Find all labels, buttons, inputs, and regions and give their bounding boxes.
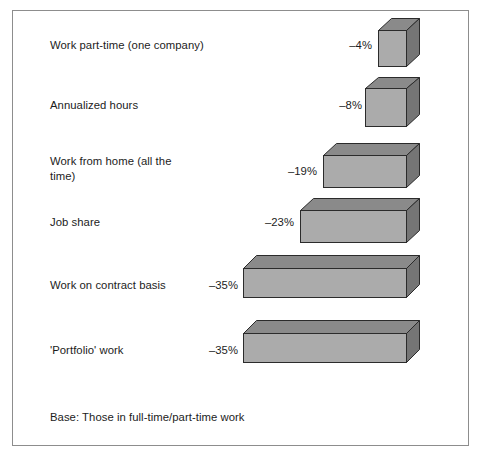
bar-value-label: –4% bbox=[300, 39, 372, 52]
bar-3d-block bbox=[300, 196, 421, 251]
bar-category-label: Job share bbox=[50, 215, 240, 230]
bar-value-label: –35% bbox=[166, 344, 238, 357]
bar-value-label: –19% bbox=[245, 165, 317, 178]
bar-3d-block bbox=[365, 77, 421, 133]
bar-category-label-line1: 'Portfolio' work bbox=[50, 344, 124, 356]
bar-category-label: Work from home (all the time) bbox=[50, 154, 240, 183]
bar-category-label-line1: Job share bbox=[50, 216, 100, 228]
bar-top-face bbox=[244, 321, 420, 334]
bar-value-label: –35% bbox=[166, 279, 238, 292]
bar-top-face bbox=[244, 256, 420, 269]
bar-front-face bbox=[301, 211, 407, 243]
bar-front-face bbox=[379, 31, 407, 67]
figure-3d-bar-chart: Work part-time (one company) –4% Annuali… bbox=[0, 0, 484, 460]
bar-top-face bbox=[301, 199, 420, 211]
bar-category-label-line2: time) bbox=[50, 170, 75, 182]
bar-category-label-line1: Work from home (all the bbox=[50, 155, 171, 167]
bar-category-label-line1: Work on contract basis bbox=[50, 279, 166, 291]
bar-category-label-line1: Annualized hours bbox=[50, 99, 138, 111]
bar-3d-block bbox=[323, 141, 421, 195]
bar-top-face bbox=[324, 144, 420, 156]
bar-category-label: Work part-time (one company) bbox=[50, 38, 240, 53]
bar-front-face bbox=[244, 269, 407, 298]
bar-value-label: –23% bbox=[222, 216, 294, 229]
bar-front-face bbox=[244, 334, 407, 363]
bar-3d-block bbox=[378, 18, 420, 73]
bar-category-label-line1: Work part-time (one company) bbox=[50, 39, 204, 51]
chart-base-note: Base: Those in full-time/part-time work bbox=[50, 410, 244, 424]
bar-3d-block bbox=[243, 253, 421, 313]
bar-front-face bbox=[366, 89, 407, 127]
bar-category-label: Annualized hours bbox=[50, 98, 240, 113]
bar-front-face bbox=[324, 156, 407, 188]
bar-value-label: –8% bbox=[290, 99, 362, 112]
bar-3d-block bbox=[243, 318, 421, 378]
chart-plot-area: Work part-time (one company) –4% Annuali… bbox=[0, 0, 484, 460]
